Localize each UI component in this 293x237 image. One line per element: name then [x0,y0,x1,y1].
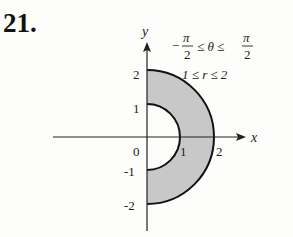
x-tick-2: 2 [216,144,223,159]
x-tick-1: 1 [180,144,187,159]
polar-region-diagram: x y 0 1 2 2 1 -1 -2 − π 2 ≤ θ ≤ π 2 1 ≤ … [0,0,293,237]
theta-lower-pi: π [183,30,190,45]
y-axis-label: y [140,24,149,39]
theta-lower-den: 2 [184,47,191,62]
theta-minus: − [172,38,179,53]
theta-middle: ≤ θ ≤ [197,39,224,54]
r-inequality: 1 ≤ r ≤ 2 [182,67,228,82]
y-tick-neg1: -1 [124,164,135,179]
x-axis-label: x [250,130,258,145]
y-tick-2: 2 [133,67,140,82]
theta-upper-pi: π [243,30,250,45]
origin-label: 0 [133,144,140,159]
theta-upper-den: 2 [244,47,251,62]
y-tick-neg2: -2 [124,198,135,213]
y-tick-1: 1 [133,101,140,116]
